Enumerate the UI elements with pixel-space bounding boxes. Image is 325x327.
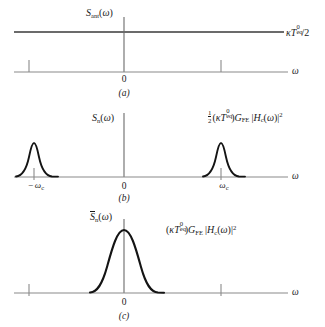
panel-b-tick-label-right: ωc: [209, 181, 239, 191]
panel-b-y-axis-label: Sn(ω): [92, 113, 114, 124]
panel-b-curve-left: [16, 143, 58, 177]
panel-a-origin-label: 0: [117, 74, 131, 84]
panel-c-caption: (c): [104, 311, 144, 321]
panel-a-level-label: κT0eq/2: [286, 26, 309, 38]
panel-b-origin-label: 0: [117, 181, 131, 191]
panel-b-level-label: 12(κT0eq)GFE |Hc(ω)|2: [208, 109, 283, 124]
panel-c: Sn(ω) (κT0eq)GFE |Hc(ω)|2 ω 0 (c): [0, 205, 325, 327]
panel-b-curve-right: [203, 143, 245, 177]
panel-c-plot: [0, 205, 325, 327]
panel-b-tick-label-left: − ωc: [16, 181, 56, 191]
panel-a-x-axis-label: ω: [292, 66, 299, 76]
panel-b-caption: (b): [104, 193, 144, 203]
panel-c-origin-label: 0: [117, 297, 131, 307]
panel-b: Sn(ω) 12(κT0eq)GFE |Hc(ω)|2 ω − ωc 0 ωc …: [0, 105, 325, 205]
panel-c-y-axis-label: Sn(ω): [90, 211, 112, 223]
panel-c-x-axis-label: ω: [292, 287, 299, 297]
panel-a-caption: (a): [104, 88, 144, 98]
panel-a-plot: [0, 0, 325, 108]
panel-a: Sant(ω) κT0eq/2 ω 0 (a): [0, 0, 325, 108]
panel-c-curve: [90, 230, 164, 293]
panel-b-x-axis-label: ω: [292, 171, 299, 181]
panel-c-level-label: (κT0eq)GFE |Hc(ω)|2: [166, 223, 236, 236]
panel-a-y-axis-label: Sant(ω): [86, 8, 113, 19]
